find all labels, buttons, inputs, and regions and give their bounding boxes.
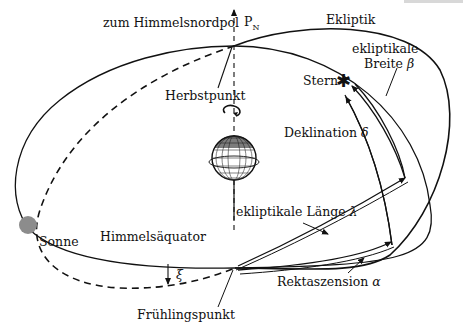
beta-symbol: β — [407, 56, 414, 71]
vernal-point-pointer — [218, 270, 233, 307]
declination-text: Deklination — [284, 125, 357, 140]
right-ascension-label: Rektaszension α — [277, 276, 381, 289]
ecliptic-longitude-label: ekliptikale Länge λ — [236, 206, 358, 219]
breite-text: Breite — [364, 56, 403, 71]
star-icon: ✱ — [336, 70, 351, 91]
lambda-symbol: λ — [350, 204, 358, 219]
pn-subscript: N — [252, 23, 259, 32]
sun-label: Sonne — [39, 236, 79, 249]
sun-icon — [19, 216, 37, 234]
star-label: Stern — [303, 75, 338, 88]
ecliptic-label: Ekliptik — [326, 14, 375, 27]
north-pole-label: zum Himmelsnordpol — [103, 17, 239, 30]
beta-pointer — [386, 68, 397, 96]
delta-arrow — [346, 97, 392, 245]
pn-label: PN — [244, 16, 259, 32]
xi-label: ξ — [176, 269, 183, 282]
ecliptic-latitude-label-2: Breite β — [364, 58, 414, 71]
alpha-symbol: α — [372, 274, 380, 289]
ecliptic-latitude-label-1: ekliptikale — [352, 43, 418, 56]
declination-label: Deklination δ — [284, 127, 369, 140]
earth-globe-icon — [209, 105, 259, 220]
celestial-equator-label: Himmelsäquator — [100, 231, 206, 244]
autumn-point-label: Herbstpunkt — [165, 90, 245, 103]
celestial-sphere-diagram: ✱ zum Himmelsnordpol PN Ekliptik eklipti… — [0, 0, 463, 330]
autumn-point-pointer — [218, 47, 232, 88]
right-ascension-text: Rektaszension — [277, 274, 368, 289]
declination-meridian — [345, 95, 392, 245]
vernal-point-label: Frühlingspunkt — [137, 309, 235, 322]
delta-symbol: δ — [361, 125, 369, 140]
longitude-text: ekliptikale Länge — [236, 204, 346, 219]
